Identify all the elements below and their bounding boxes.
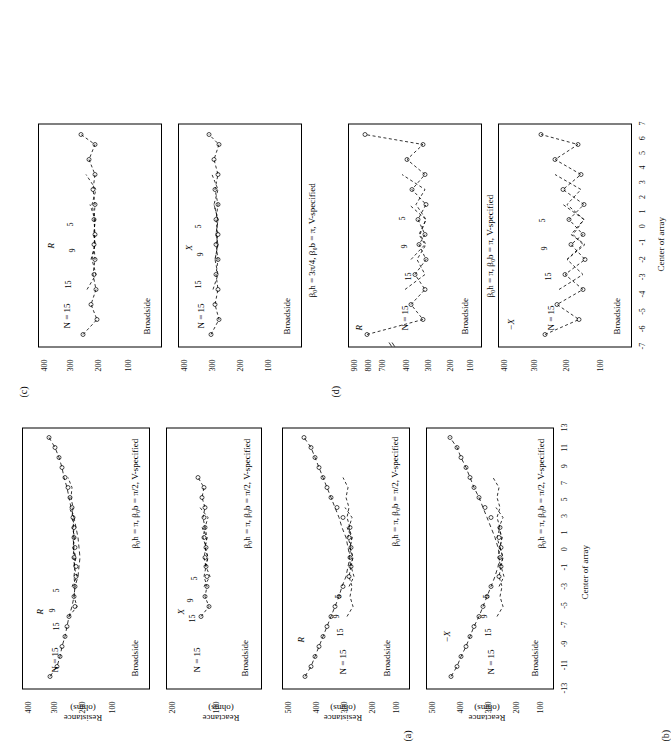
chart-d-reactance-ytick-300: 300 [530,359,539,371]
chart-a-reactance-curve-5: 5 [191,576,199,580]
chart-c-broadside-label: Broadside [143,298,152,335]
chart-b-curve-9: 9 [333,614,341,618]
chart-a-curve-9: 9 [49,608,57,612]
chart-d-reactance-symbol: −X [507,318,516,330]
chart-d-curve-5: 5 [399,216,407,220]
chart-b-reactance-ylabel: Reactance [445,712,529,722]
chart-d-reactance-broadside: Broadside [613,298,622,335]
chart-b-reactance-ytick-500: 500 [428,701,437,713]
chart-a-curve-15: 15 [53,622,61,630]
chart-b-resistance-condition: β₀h = π, β₀b = π/2, V-specified [391,436,400,546]
chart-d-resistance-ytick-700: 700 [378,359,387,371]
chart-d-condition: β₀h = π, β₀b = π, V-specified [486,194,495,297]
chart-a-reactance-curve-15: 15 [189,614,197,622]
chart-b-reactance-condition: β₀h = π, β₀b = π/2, V-specified [537,438,546,548]
right-column-xlabel: Center of array [656,217,666,271]
chart-d-resistance-n15: N = 15 [401,305,410,330]
chart-b-resistance-ylabel-units: (ohms) [303,702,383,712]
chart-b-reactance: −X N = 15 15 9 5 Broadside β₀h = π, β₀b … [426,427,554,689]
panel-tag-c: (c) [18,386,29,397]
chart-b-reactance-curve-15: 15 [485,628,493,636]
chart-a-reactance-ylabel: Reactance [179,712,263,722]
chart-c-resistance-ytick-200: 200 [94,359,103,371]
chart-c-reactance-ytick-100: 100 [264,359,273,371]
chart-d-reactance-curve-5: 5 [539,218,547,222]
chart-d-reactance-ytick-200: 200 [562,359,571,371]
chart-a-reactance-ylabel-units: (ohms) [179,702,263,712]
chart-a-resistance-ylabel: Resistance [43,712,123,722]
chart-d-resistance-ytick-900: 900 [350,359,359,371]
chart-b-resistance-ytick-500: 500 [284,701,293,713]
chart-d-resistance-ytick-200: 200 [446,359,455,371]
chart-b-curve-5: 5 [335,594,343,598]
chart-d-curve-9: 9 [401,244,409,248]
chart-a-reactance-n15: N = 15 [193,647,202,672]
chart-a-reactance-broadside: Broadside [241,640,250,677]
chart-c-resistance-ytick-300: 300 [66,359,75,371]
chart-b-reactance-symbol: −X [443,630,452,642]
chart-c-resistance-symbol: R [47,243,56,249]
chart-c-reactance-n15: N = 15 [197,303,206,328]
chart-b-resistance-ylabel: Resistance [303,712,383,722]
chart-d-reactance-n15: N = 15 [547,305,556,330]
chart-b-reactance-ytick-100: 100 [536,701,545,713]
chart-c-curve-9: 9 [69,248,77,252]
chart-d-resistance-ytick-800: 800 [364,359,373,371]
left-column-xticks: -13-11-9-7-5-3-10135791113 [560,423,569,693]
chart-b-curve-15: 15 [337,628,345,636]
chart-a-resistance-n15: N = 15 [51,647,60,672]
panel-tag-b: (b) [660,729,671,741]
chart-b-reactance-broadside: Broadside [531,640,540,677]
chart-a-reactance-condition: β₀h = π, β₀b = π/2, V-specified [243,438,252,548]
chart-b-resistance: R N = 15 15 9 5 Broadside β₀h = π, β₀b =… [282,427,410,689]
chart-c-reactance-broadside: Broadside [283,298,292,335]
chart-a-resistance-ylabel-units: (ohms) [43,702,123,712]
chart-c-reactance-curve-9: 9 [197,252,205,256]
chart-d-curve-15: 15 [405,272,413,280]
chart-c-resistance-n15: N = 15 [63,303,72,328]
chart-c-curve-15: 15 [65,280,73,288]
chart-d-reactance-curve-15: 15 [545,272,553,280]
chart-c-reactance-curve-5: 5 [195,224,203,228]
chart-b-reactance-curve-5: 5 [483,594,491,598]
chart-a-broadside-label: Broadside [131,640,140,677]
chart-d-resistance: R N = 15 15 9 5 Broadside [348,123,482,347]
chart-c-reactance: X N = 15 15 9 5 Broadside [178,123,302,347]
chart-b-resistance-ytick-100: 100 [392,701,401,713]
chart-d-resistance-ytick-100: 100 [466,359,475,371]
chart-c-reactance-ytick-300: 300 [208,359,217,371]
chart-a-resistance-condition: β₀h = π, β₀b = π/2, V-specified [131,438,140,548]
panel-tag-a: (a) [402,730,413,741]
chart-b-broadside-label: Broadside [383,640,392,677]
chart-a-resistance-ytick-400: 400 [24,701,33,713]
chart-c-curve-5: 5 [67,222,75,226]
chart-c-reactance-curve-15: 15 [195,280,203,288]
chart-b-reactance-ylabel-units: (ohms) [445,702,529,712]
chart-a-reactance-ytick-200: 200 [168,701,177,713]
chart-c-resistance: R N = 15 15 9 5 Broadside [38,123,162,347]
right-column-xticks: -7-6-5-4-3-2-101234567 [638,121,647,349]
chart-c-reactance-symbol: X [185,245,194,251]
chart-c-reactance-ytick-200: 200 [236,359,245,371]
chart-b-reactance-n15: N = 15 [487,649,496,674]
chart-d-resistance-ytick-400: 400 [402,359,411,371]
chart-d-broadside-label: Broadside [461,298,470,335]
chart-b-resistance-n15: N = 15 [339,649,348,674]
chart-d-resistance-symbol: R [355,325,364,331]
chart-b-reactance-curve-9: 9 [481,614,489,618]
chart-a-curve-5: 5 [53,588,61,592]
panel-tag-d: (d) [330,385,341,397]
chart-c-condition: β₀h = 3π/4, β₀b = π, V-specified [308,183,317,297]
chart-c-resistance-ytick-100: 100 [124,359,133,371]
chart-d-reactance-ytick-100: 100 [596,359,605,371]
chart-d-reactance: −X N = 15 15 9 5 Broadside [498,123,632,347]
left-column-xlabel: Center of array [580,545,590,599]
chart-a-reactance-curve-9: 9 [187,598,195,602]
chart-a-resistance-symbol: R [36,609,45,615]
chart-d-reactance-curve-9: 9 [541,246,549,250]
chart-a-reactance: X N = 15 15 9 5 Broadside β₀h = π, β₀b =… [166,427,262,689]
chart-b-resistance-symbol: R [297,637,306,643]
chart-a-reactance-symbol: X [177,609,186,615]
